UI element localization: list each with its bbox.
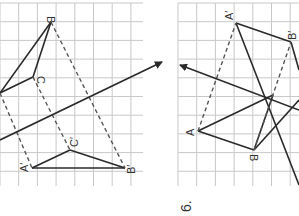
label-A-prime: A′ (18, 163, 30, 172)
left-grid (0, 3, 143, 186)
label-C: C (35, 76, 47, 84)
left-panel-figure (0, 22, 162, 168)
dashed-BB1 (51, 22, 125, 168)
label-B-right: B (248, 154, 260, 161)
left-labels: B C A′ C′ B′ (18, 16, 137, 174)
translation-vector-arrow (0, 62, 162, 140)
label-B-prime: B′ (125, 165, 137, 174)
segment-B1-edge (291, 42, 299, 70)
geometry-figure: B C A′ C′ B′ A′ B′ A B 6. (0, 0, 299, 216)
label-A-prime-right: A′ (223, 11, 235, 20)
segment-BC (33, 22, 51, 77)
problem-number: 6. (178, 200, 194, 212)
label-A-right: A (184, 128, 196, 136)
dashed-AA1 (0, 93, 32, 168)
right-panel-figure (180, 23, 299, 185)
label-B: B (45, 16, 57, 23)
axis-arrow-right (180, 65, 299, 110)
label-C-prime: C′ (68, 137, 80, 147)
segment-A1B1-right (236, 23, 291, 42)
dashed-CC1 (33, 77, 70, 150)
label-B-prime-right: B′ (286, 31, 298, 40)
